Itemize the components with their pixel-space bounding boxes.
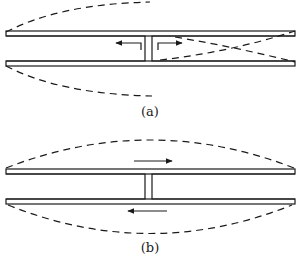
panel-label-a: (a) <box>141 104 159 119</box>
panel-label-b: (b) <box>141 240 159 255</box>
arrow-left-a <box>116 43 141 50</box>
upper-plate-a <box>6 31 295 61</box>
field-lines-a <box>6 2 295 96</box>
panel-a: (a) <box>6 2 295 119</box>
lower-arc-b <box>8 205 292 234</box>
arrow-right-a <box>158 43 182 50</box>
upper-plate-b <box>6 169 295 199</box>
upper-lobe-a <box>6 2 150 32</box>
lower-lobe-a <box>6 66 152 96</box>
field-lines-b <box>6 140 294 234</box>
lower-plate-a <box>6 61 295 66</box>
panel-b: (b) <box>6 140 295 255</box>
upper-arc-b <box>6 140 294 168</box>
arrows-a <box>116 43 182 50</box>
lower-plate-b <box>6 199 295 204</box>
cross-line-2-a <box>175 37 295 62</box>
cross-line-1-a <box>160 31 295 60</box>
diagram-canvas: (a) (b) <box>0 0 300 257</box>
